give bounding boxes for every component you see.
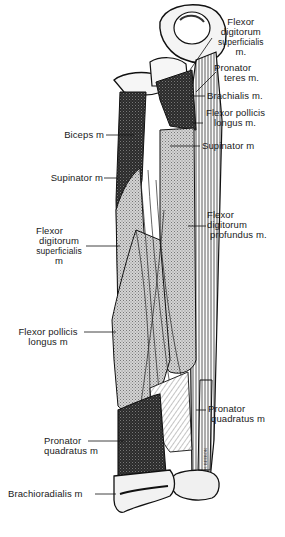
label-brachialis: Brachialis m. — [207, 91, 263, 101]
label-flexor-digitorum-profundus: Flexor digitorum profundus m. — [207, 210, 267, 240]
pronator-quadratus-muscle — [118, 394, 166, 478]
label-pronator-quadratus-left: Pronator quadratus m — [40, 436, 102, 456]
label-supinator-right: Supinator m — [202, 141, 254, 151]
label-pronator-teres: Pronator teres m. — [214, 63, 259, 83]
ulna-distal-head — [172, 470, 220, 500]
label-brachioradialis: Brachioradialis m — [8, 489, 83, 499]
radius-distal-end — [114, 470, 175, 512]
label-flexor-pollicis-longus-left: Flexor pollicis longus m — [12, 327, 84, 347]
label-supinator-left: Supinator m — [46, 173, 103, 183]
label-flexor-pollicis-longus-top: Flexor pollicis longus m. — [206, 108, 265, 128]
label-flexor-digitorum-superficialis-left: Flexor digitorum superficialis m — [28, 226, 90, 266]
label-flexor-digitorum-superficialis-top: Flexor digitorum superficialis m. — [218, 17, 264, 57]
label-biceps: Biceps m — [60, 130, 104, 140]
label-pronator-quadratus-right: Pronator quadratus m — [208, 404, 265, 424]
artist-signature: H. BEEBON — [203, 448, 208, 470]
